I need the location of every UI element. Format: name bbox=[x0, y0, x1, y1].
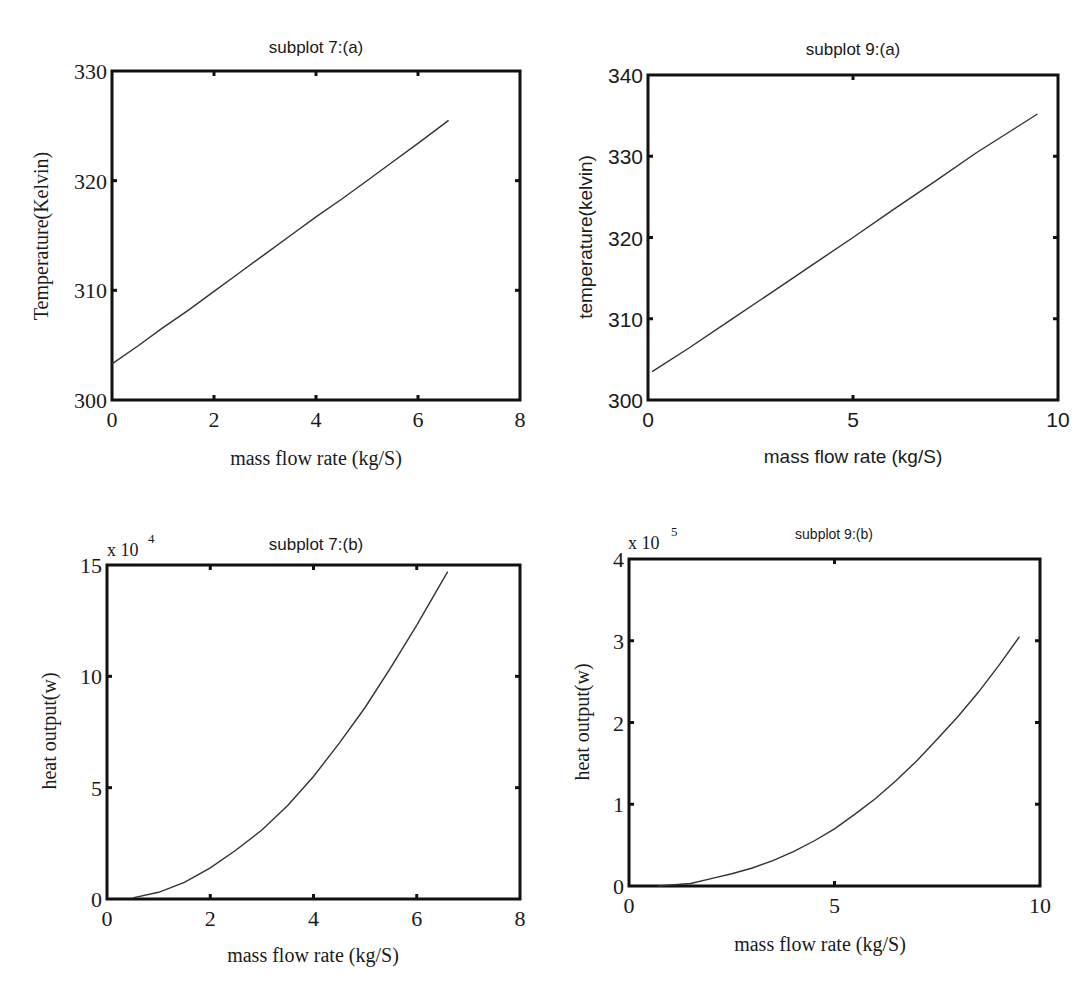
tick-marks bbox=[629, 559, 1040, 886]
tick-labels: 051001234 bbox=[613, 547, 1051, 918]
y-tick-label: 0 bbox=[613, 874, 624, 899]
svg-text:x 10: x 10 bbox=[628, 533, 660, 553]
y-axis-exponent: x 10 5 bbox=[628, 524, 678, 553]
y-tick-label: 1 bbox=[613, 792, 624, 817]
plot-frame bbox=[629, 559, 1040, 886]
svg-text:heat output(w): heat output(w) bbox=[571, 663, 594, 780]
data-line bbox=[658, 637, 1020, 886]
y-axis-label: heat output(w) bbox=[571, 663, 594, 780]
svg-text:5: 5 bbox=[671, 524, 678, 539]
y-tick-label: 2 bbox=[613, 711, 624, 736]
x-tick-label: 0 bbox=[624, 893, 635, 918]
x-tick-label: 5 bbox=[829, 893, 840, 918]
x-axis-label: mass flow rate (kg/S) bbox=[734, 933, 906, 956]
plot-9b: subplot 9:(b) x 10 5 heat output(w) mass… bbox=[0, 0, 1084, 990]
x-tick-label: 10 bbox=[1029, 893, 1051, 918]
plot-title: subplot 9:(b) bbox=[795, 526, 873, 542]
y-tick-label: 4 bbox=[613, 547, 624, 572]
panel-subplot-9b: subplot 9:(b) x 10 5 heat output(w) mass… bbox=[0, 0, 1084, 990]
y-tick-label: 3 bbox=[613, 629, 624, 654]
